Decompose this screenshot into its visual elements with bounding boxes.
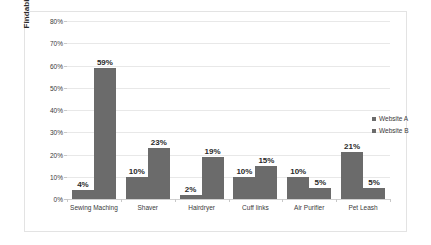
legend-item-label: Website B	[379, 127, 409, 134]
legend-item[interactable]: Website A	[372, 115, 409, 122]
bar-group: 2%19%	[175, 21, 229, 199]
x-axis: Sewing MachingShaverHairdryerCuff linksA…	[67, 199, 390, 221]
chart-legend: Website AWebsite B	[372, 115, 409, 134]
bar-value-label: 10%	[236, 167, 252, 176]
x-axis-tick-label: Air Purifier	[282, 199, 336, 221]
bar-value-label: 2%	[185, 185, 197, 194]
x-axis-tick-label: Sewing Maching	[67, 199, 121, 221]
x-axis-tick-label: Pet Leash	[336, 199, 390, 221]
x-axis-tickmark	[229, 199, 230, 202]
bar-value-label: 19%	[205, 147, 221, 156]
y-axis-tick-label: 0%	[54, 196, 63, 203]
y-axis-tick-label: 50%	[50, 84, 63, 91]
bar-value-label: 10%	[290, 167, 306, 176]
legend-swatch-icon	[372, 129, 376, 133]
x-axis-tickmark	[121, 199, 122, 202]
bar-group: 10%23%	[121, 21, 175, 199]
bar-value-label: 15%	[258, 156, 274, 165]
bar[interactable]: 4%	[72, 190, 94, 199]
y-axis-tick-label: 20%	[50, 151, 63, 158]
y-axis-tick-label: 10%	[50, 173, 63, 180]
x-axis-tickmark	[390, 199, 391, 202]
bar-group: 21%5%	[336, 21, 390, 199]
bar[interactable]: 15%	[255, 166, 277, 199]
bar-value-label: 59%	[97, 58, 113, 67]
bar-value-label: 5%	[368, 178, 380, 187]
bar[interactable]: 5%	[309, 188, 331, 199]
bar[interactable]: 21%	[341, 152, 363, 199]
bar-group: 10%5%	[282, 21, 336, 199]
x-axis-tick-label: Shaver	[121, 199, 175, 221]
y-axis-tick-label: 60%	[50, 62, 63, 69]
x-axis-tickmark	[336, 199, 337, 202]
legend-swatch-icon	[372, 117, 376, 121]
bar-group: 4%59%	[67, 21, 121, 199]
bar[interactable]: 59%	[94, 68, 116, 199]
bar[interactable]: 19%	[202, 157, 224, 199]
x-axis-tickmark	[67, 199, 68, 202]
bar-value-label: 23%	[151, 138, 167, 147]
bar-value-label: 4%	[77, 180, 89, 189]
x-axis-tick-label: Cuff links	[228, 199, 282, 221]
x-axis-tick-label: Hairdryer	[175, 199, 229, 221]
bar[interactable]: 10%	[126, 177, 148, 199]
y-axis-tick-label: 70%	[50, 40, 63, 47]
bar[interactable]: 23%	[148, 148, 170, 199]
y-axis-tick-label: 30%	[50, 129, 63, 136]
bar-groups: 4%59%10%23%2%19%10%15%10%5%21%5%	[67, 21, 390, 199]
plot-area: 0%10%20%30%40%50%60%70%80% 4%59%10%23%2%…	[67, 21, 390, 199]
chart-container: Findability Rate 0%10%20%30%40%50%60%70%…	[24, 11, 407, 232]
legend-item[interactable]: Website B	[372, 127, 409, 134]
legend-item-label: Website A	[379, 115, 408, 122]
y-axis-title: Findability Rate	[22, 0, 31, 58]
bar-value-label: 10%	[129, 167, 145, 176]
bar-group: 10%15%	[228, 21, 282, 199]
y-axis-tick-label: 40%	[50, 107, 63, 114]
bar-value-label: 5%	[314, 178, 326, 187]
bar-value-label: 21%	[344, 142, 360, 151]
x-axis-tickmark	[282, 199, 283, 202]
bar[interactable]: 10%	[287, 177, 309, 199]
bar[interactable]: 10%	[233, 177, 255, 199]
x-axis-tickmark	[175, 199, 176, 202]
bar[interactable]: 5%	[363, 188, 385, 199]
y-axis-tick-label: 80%	[50, 18, 63, 25]
